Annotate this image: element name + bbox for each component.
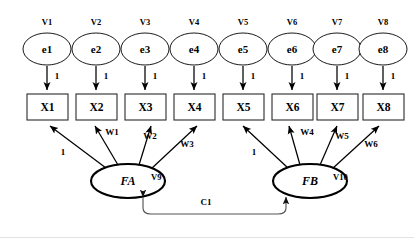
loading-label-fa-x3: W2 xyxy=(143,131,157,141)
error-label-e7: e7 xyxy=(332,43,343,55)
error-node-e1[interactable]: e1 V1 xyxy=(23,17,71,65)
indicator-label-x6: X6 xyxy=(285,101,299,113)
indicator-node-x1[interactable]: X1 xyxy=(27,94,68,120)
loading-path-fa-x1: 1 xyxy=(50,126,106,168)
error-path-e5-x5: 1 xyxy=(243,66,256,90)
indicator-label-x3: X3 xyxy=(138,101,152,113)
error-path-label-e7: 1 xyxy=(345,71,350,81)
variance-label-v9: V9 xyxy=(151,172,161,182)
error-node-e7[interactable]: e7 V7 xyxy=(313,17,361,65)
error-node-e3[interactable]: e3 V3 xyxy=(121,17,169,65)
error-path-e4-x4: 1 xyxy=(194,66,207,90)
variance-label-v5: V5 xyxy=(238,17,248,27)
loading-label-fb-x8: W6 xyxy=(364,139,378,149)
error-path-label-e6: 1 xyxy=(300,71,305,81)
loading-label-fb-x6: W4 xyxy=(300,127,314,137)
error-path-label-e5: 1 xyxy=(251,71,256,81)
covariance-path-fa-fb: C1 xyxy=(143,197,286,214)
indicator-node-x5[interactable]: X5 xyxy=(223,94,264,120)
loading-path-fa-x4: W3 xyxy=(151,126,197,169)
variance-label-v3: V3 xyxy=(140,17,150,27)
indicator-label-x4: X4 xyxy=(187,101,201,113)
loading-path-fa-x2: W1 xyxy=(95,126,119,165)
indicator-node-x3[interactable]: X3 xyxy=(125,94,166,120)
indicator-node-x8[interactable]: X8 xyxy=(363,94,404,120)
indicator-label-x1: X1 xyxy=(40,101,54,113)
indicator-label-x5: X5 xyxy=(236,101,250,113)
error-path-label-e2: 1 xyxy=(104,71,109,81)
variance-label-v2: V2 xyxy=(91,17,101,27)
loading-label-fa-x4: W3 xyxy=(180,139,194,149)
error-label-e2: e2 xyxy=(91,43,102,55)
error-node-e5[interactable]: e5 V5 xyxy=(219,17,267,65)
error-path-label-e4: 1 xyxy=(202,71,207,81)
loading-path-fb-x6: W4 xyxy=(289,126,314,165)
diagram-canvas: e1 V1 e2 V2 e3 V3 e4 V4 e5 V5 e6 V6 xyxy=(0,0,414,238)
error-node-e2[interactable]: e2 V2 xyxy=(72,17,120,65)
error-path-label-e1: 1 xyxy=(55,71,60,81)
error-path-e3-x3: 1 xyxy=(145,66,158,90)
variance-label-v1: V1 xyxy=(42,17,52,27)
path-diagram-svg: e1 V1 e2 V2 e3 V3 e4 V4 e5 V5 e6 V6 xyxy=(0,0,414,238)
error-label-e1: e1 xyxy=(42,43,52,55)
error-node-e4[interactable]: e4 V4 xyxy=(170,17,218,65)
loading-label-fa-x2: W1 xyxy=(105,127,119,137)
factor-node-fb[interactable]: FB V10 xyxy=(273,164,348,198)
loading-path-fb-x5: 1 xyxy=(243,126,288,168)
indicator-node-x2[interactable]: X2 xyxy=(76,94,117,120)
error-node-e6[interactable]: e6 V6 xyxy=(268,17,316,65)
indicator-node-x4[interactable]: X4 xyxy=(174,94,215,120)
factor-label-fb: FB xyxy=(301,174,318,188)
loading-label-fb-x7: W5 xyxy=(335,131,349,141)
error-node-e8[interactable]: e8 V8 xyxy=(359,17,407,65)
error-path-e6-x6: 1 xyxy=(292,66,305,90)
error-label-e6: e6 xyxy=(287,43,298,55)
error-path-e8-x8: 1 xyxy=(383,66,396,90)
error-path-label-e3: 1 xyxy=(153,71,158,81)
error-label-e4: e4 xyxy=(189,43,200,55)
covariance-label-c1: C1 xyxy=(201,197,212,207)
error-label-e3: e3 xyxy=(140,43,151,55)
error-path-label-e8: 1 xyxy=(391,71,396,81)
variance-label-v7: V7 xyxy=(332,17,343,27)
indicator-label-x7: X7 xyxy=(330,101,344,113)
variance-label-v8: V8 xyxy=(378,17,388,27)
error-path-e1-x1: 1 xyxy=(47,66,60,90)
variance-label-v4: V4 xyxy=(189,17,200,27)
variance-label-v10: V10 xyxy=(333,172,348,182)
indicator-label-x8: X8 xyxy=(376,101,390,113)
loading-path-fb-x7: W5 xyxy=(320,126,349,165)
error-path-e2-x2: 1 xyxy=(96,66,109,90)
factor-node-fa[interactable]: FA V9 xyxy=(91,164,165,198)
variance-label-v6: V6 xyxy=(287,17,297,27)
factor-label-fa: FA xyxy=(120,174,136,188)
indicator-label-x2: X2 xyxy=(89,101,103,113)
error-label-e8: e8 xyxy=(378,43,389,55)
indicator-node-x6[interactable]: X6 xyxy=(272,94,313,120)
error-path-e7-x7: 1 xyxy=(337,66,350,90)
loading-label-fb-x5: 1 xyxy=(252,147,257,157)
loading-path-fa-x3: W2 xyxy=(139,126,157,165)
loading-label-fa-x1: 1 xyxy=(61,147,66,157)
indicator-node-x7[interactable]: X7 xyxy=(317,94,358,120)
error-label-e5: e5 xyxy=(238,43,249,55)
